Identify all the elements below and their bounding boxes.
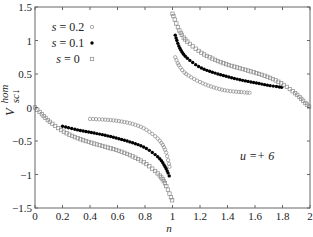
y-tick-label: 1 [27, 35, 33, 47]
x-tick-label: 0.4 [83, 210, 97, 222]
legend-marker-open-square [90, 57, 93, 60]
legend-marker-open-circle [90, 25, 93, 28]
axis-ticks: 00.20.40.60.811.21.41.61.82−1.5−1−0.500.… [12, 1, 313, 222]
x-tick-label: 0.2 [56, 210, 70, 222]
x-tick-label: 0.6 [111, 210, 125, 222]
annotation-u: u =+ 6 [240, 149, 274, 163]
y-tick-label: −0.5 [12, 135, 32, 147]
x-axis-label: n [166, 222, 172, 234]
y-label-main: V [3, 107, 17, 116]
y-tick-label: 0.5 [18, 68, 32, 80]
y-label-subscript: sc↓ [9, 89, 21, 104]
y-tick-label: 1.5 [18, 1, 32, 13]
y-tick-label: −1 [20, 169, 32, 181]
x-tick-label: 0.8 [138, 210, 152, 222]
chart: 00.20.40.60.811.21.41.61.82−1.5−1−0.500.… [0, 0, 313, 237]
x-tick-label: 1.8 [276, 210, 290, 222]
y-tick-label: −1.5 [12, 202, 32, 214]
x-tick-label: 1.2 [193, 210, 207, 222]
x-tick-label: 1.6 [248, 210, 262, 222]
y-axis-label: V hom sc↓ [0, 84, 21, 115]
legend: s = 0.2s = 0.1s = 0 [52, 20, 94, 66]
y-tick-label: 0 [27, 102, 33, 114]
legend-label: s = 0.1 [52, 36, 84, 50]
series-open-circle [88, 56, 251, 169]
svg-text:sc↓: sc↓ [9, 89, 21, 104]
x-tick-label: 1.4 [221, 210, 235, 222]
x-tick-label: 0 [32, 210, 38, 222]
legend-label: s = 0 [56, 52, 79, 66]
x-tick-label: 1 [170, 210, 176, 222]
x-tick-label: 2 [307, 210, 313, 222]
svg-text:V: V [3, 107, 17, 116]
legend-marker-filled-circle [90, 41, 93, 44]
legend-label: s = 0.2 [52, 20, 84, 34]
